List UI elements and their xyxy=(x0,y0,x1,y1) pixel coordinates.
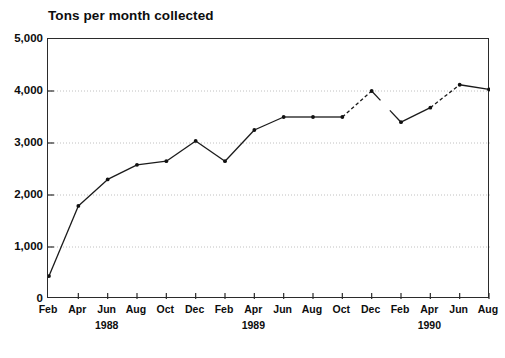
data-line-segment xyxy=(137,161,166,165)
x-axis-tick-label: Jun xyxy=(97,303,116,315)
y-axis-tick-label: 5,000 xyxy=(1,32,43,44)
x-axis-tick-label: Apr xyxy=(68,303,86,315)
y-axis-tick-label: 2,000 xyxy=(1,188,43,200)
x-axis-tick-label: Aug xyxy=(126,303,146,315)
data-point xyxy=(458,83,462,87)
x-axis-tick-label: Dec xyxy=(185,303,204,315)
data-point xyxy=(252,128,256,132)
x-axis-tick-label: Apr xyxy=(420,303,438,315)
x-axis-tick-label: Jun xyxy=(449,303,468,315)
data-line-segment-broken xyxy=(390,110,401,122)
x-axis-tick-label: Oct xyxy=(157,303,175,315)
data-line-segment xyxy=(225,130,254,161)
x-axis-tick-label: Dec xyxy=(361,303,380,315)
data-point xyxy=(370,89,374,93)
gridlines xyxy=(48,91,490,247)
data-point xyxy=(282,115,286,119)
data-point xyxy=(487,88,490,92)
data-line-segment xyxy=(254,117,283,130)
data-point xyxy=(399,120,403,124)
data-line-segment xyxy=(166,141,195,161)
y-axis-ticks xyxy=(48,91,54,247)
x-axis-year-label: 1988 xyxy=(95,319,118,331)
data-point xyxy=(194,139,198,143)
x-axis-tick-label: Aug xyxy=(302,303,322,315)
data-point xyxy=(106,178,110,182)
data-line-segment xyxy=(108,165,137,180)
x-axis-tick-label: Aug xyxy=(478,303,498,315)
x-axis: FebAprJunAugOctDecFebAprJunAugOctDecFebA… xyxy=(0,303,505,353)
data-line-segment xyxy=(78,179,107,206)
x-axis-tick-label: Feb xyxy=(391,303,410,315)
x-axis-ticks xyxy=(78,293,489,299)
x-axis-year-label: 1989 xyxy=(242,319,265,331)
data-point xyxy=(311,115,315,119)
data-line-segment xyxy=(460,85,489,90)
data-line-segment xyxy=(196,141,225,161)
data-point xyxy=(48,274,51,278)
chart-root: Tons per month collected 01,0002,0003,00… xyxy=(0,0,505,358)
x-axis-tick-label: Jun xyxy=(273,303,292,315)
data-point-markers xyxy=(48,83,490,278)
x-axis-tick-label: Apr xyxy=(244,303,262,315)
x-axis-tick-label: Feb xyxy=(39,303,58,315)
plot-svg xyxy=(48,39,490,299)
data-point xyxy=(164,159,168,163)
data-point xyxy=(340,115,344,119)
data-line-segment-dashed xyxy=(430,85,459,108)
data-point xyxy=(428,106,432,110)
y-axis-tick-label: 4,000 xyxy=(1,84,43,96)
data-line-segment-broken xyxy=(372,91,381,100)
y-axis-tick-label: 1,000 xyxy=(1,240,43,252)
data-point xyxy=(76,204,80,208)
x-axis-tick-label: Feb xyxy=(215,303,234,315)
plot-area xyxy=(47,38,489,298)
data-line-segment-dashed xyxy=(342,91,371,117)
data-point xyxy=(135,163,139,167)
y-axis-tick-label: 3,000 xyxy=(1,136,43,148)
x-axis-tick-label: Oct xyxy=(333,303,351,315)
data-line-segment xyxy=(49,206,78,276)
x-axis-year-label: 1990 xyxy=(418,319,441,331)
chart-title: Tons per month collected xyxy=(48,8,214,23)
data-point xyxy=(223,159,227,163)
data-line-segment xyxy=(401,108,430,123)
